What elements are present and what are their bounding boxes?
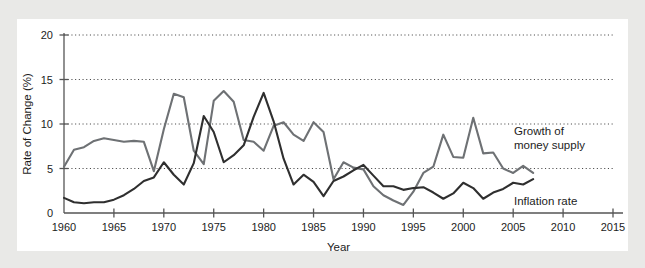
annotation-inflation-rate: Inflation rate	[514, 195, 577, 207]
x-tick-label: 2015	[601, 221, 625, 233]
y-tick-label: 0	[47, 207, 53, 219]
line-chart: 05101520 1960196519701975198019851990199…	[17, 19, 628, 251]
y-tick-label: 15	[41, 74, 53, 86]
chart-figure: 05101520 1960196519701975198019851990199…	[17, 19, 628, 251]
x-tick-label: 1995	[401, 221, 425, 233]
x-tick-label: 1985	[301, 221, 325, 233]
x-tick-label: 1980	[251, 221, 275, 233]
x-tick-labels: 1960196519701975198019851990199520002005…	[52, 221, 625, 233]
y-axis	[60, 33, 69, 213]
x-tick-label: 1975	[201, 221, 225, 233]
x-tick-label: 2010	[551, 221, 575, 233]
annotation-money-supply-line2: money supply	[514, 139, 585, 151]
annotation-money-supply-line1: Growth of	[514, 125, 565, 137]
x-tick-label: 2000	[451, 221, 475, 233]
x-axis-label: Year	[327, 241, 350, 251]
y-tick-label: 10	[41, 118, 53, 130]
y-axis-label: Rate of Change (%)	[21, 73, 33, 175]
series-line	[64, 93, 533, 203]
x-tick-label: 2005	[501, 221, 525, 233]
data-series	[64, 91, 533, 205]
x-tick-label: 1970	[152, 221, 176, 233]
x-tick-label: 1965	[102, 221, 126, 233]
x-tick-label: 1960	[52, 221, 76, 233]
x-tick-label: 1990	[351, 221, 375, 233]
y-tick-label: 5	[47, 163, 53, 175]
y-tick-labels: 05101520	[41, 29, 53, 219]
y-tick-label: 20	[41, 29, 53, 41]
x-axis	[64, 209, 623, 218]
